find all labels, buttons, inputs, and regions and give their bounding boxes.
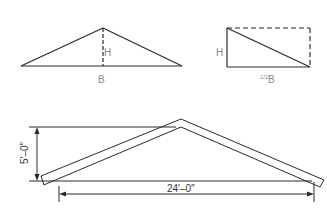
triangle-base-label: B	[98, 75, 105, 85]
rectangle-base-fraction: 1/2	[260, 74, 266, 80]
triangle-figure	[21, 28, 182, 66]
rise-arrow-up-icon	[35, 127, 40, 134]
rise-dimension-label: 5′–0″	[20, 142, 30, 164]
triangle-right-side	[103, 28, 182, 66]
rise-arrow-down-icon	[35, 174, 40, 181]
span-dimension-label: 24′–0″	[167, 184, 195, 194]
triangle-height-label: H	[104, 48, 111, 58]
rectangle-base-unit: B	[268, 75, 275, 85]
rectangle-diagonal	[227, 28, 310, 67]
roof-right-tail	[320, 180, 324, 187]
triangle-left-side	[21, 28, 103, 66]
span-arrow-left-icon	[59, 192, 66, 197]
diagram-canvas	[0, 0, 327, 212]
rectangle-height-label: H	[216, 48, 223, 58]
rectangle-figure	[227, 28, 310, 67]
span-arrow-right-icon	[307, 192, 314, 197]
